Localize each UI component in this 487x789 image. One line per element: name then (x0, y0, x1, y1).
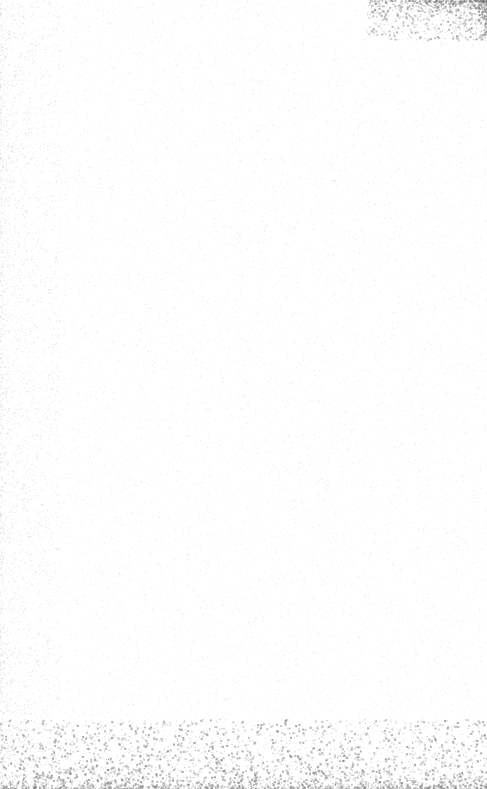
scan-noise-texture (0, 0, 487, 789)
blank-scanned-page (0, 0, 487, 789)
